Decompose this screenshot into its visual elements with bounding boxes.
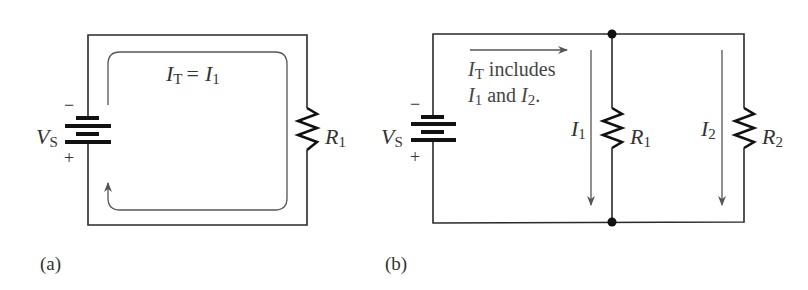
- resistor-label-r1: R1: [629, 124, 651, 150]
- resistor-label-r2: R2: [761, 124, 783, 150]
- junction-bottom-dot: [608, 218, 617, 227]
- resistor-r1-icon: [603, 108, 622, 148]
- caption-a: (a): [40, 253, 61, 275]
- battery-icon: [65, 118, 111, 142]
- current-equation: IT=I1: [165, 61, 220, 87]
- minus-sign: −: [64, 95, 74, 115]
- circuit-figure: − + VS R1 IT=I1 (a) − + VS IT includes I…: [0, 0, 808, 290]
- junction-top-dot: [608, 30, 617, 39]
- caption-b: (b): [385, 253, 407, 275]
- panel-a-series-circuit: − + VS R1 IT=I1 (a): [36, 35, 346, 275]
- branch-current-label-i1: I1: [570, 116, 586, 142]
- plus-sign: +: [64, 148, 74, 168]
- resistor-label-r1: R1: [324, 124, 346, 150]
- resistor-r2-icon: [735, 108, 754, 148]
- battery-icon: [411, 117, 456, 140]
- resistor-r1-icon: [298, 108, 317, 150]
- plus-sign: +: [410, 147, 420, 167]
- wire-main-b: [433, 34, 744, 223]
- note-line-2: I1 and I2.: [467, 84, 540, 108]
- source-label-vs: VS: [36, 124, 58, 150]
- panel-b-parallel-circuit: − + VS IT includes I1 and I2. I1 R1 I2 R…: [381, 30, 783, 276]
- branch-current-label-i2: I2: [700, 116, 716, 142]
- source-label-vs: VS: [381, 124, 403, 150]
- note-line-1: IT includes: [467, 58, 556, 82]
- minus-sign: −: [410, 94, 420, 114]
